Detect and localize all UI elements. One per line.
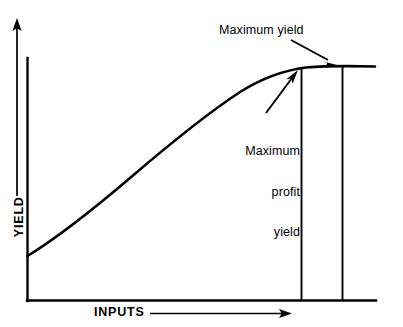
chart-canvas (0, 0, 403, 327)
max-profit-yield-line-2: profit (204, 186, 300, 200)
max-profit-yield-leader-shaft (266, 78, 292, 113)
max-yield-leader-shaft (291, 40, 328, 60)
yield-curve-path (28, 66, 376, 256)
yield-response-chart: Maximum yield Maximum profit yield YIELD… (0, 0, 403, 327)
max-yield-annotation-label: Maximum yield (219, 24, 304, 38)
x-axis-title: INPUTS (94, 306, 145, 320)
max-profit-yield-line-3: yield (204, 226, 300, 240)
y-axis-title: YIELD (13, 187, 27, 247)
max-profit-yield-annotation-label: Maximum profit yield (204, 118, 300, 267)
max-profit-yield-line-1: Maximum (204, 145, 300, 159)
